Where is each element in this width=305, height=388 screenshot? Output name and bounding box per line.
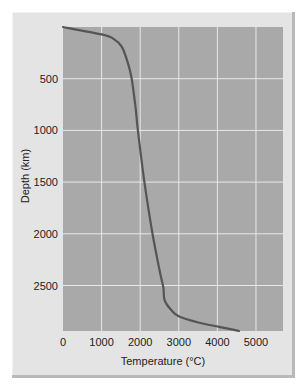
x-tick-label: 2000 bbox=[128, 336, 152, 348]
y-axis-label: Depth (km) bbox=[19, 149, 31, 203]
y-tick-labels: 5001000150020002500 bbox=[34, 73, 58, 292]
x-tick-label: 3000 bbox=[167, 336, 191, 348]
x-tick-label: 4000 bbox=[205, 336, 229, 348]
x-tick-label: 0 bbox=[60, 336, 66, 348]
x-tick-label: 1000 bbox=[89, 336, 113, 348]
y-tick-label: 500 bbox=[40, 73, 58, 85]
y-tick-label: 1500 bbox=[34, 176, 58, 188]
x-axis-label: Temperature (°C) bbox=[121, 355, 205, 367]
y-tick-label: 2500 bbox=[34, 280, 58, 292]
y-tick-label: 2000 bbox=[34, 228, 58, 240]
depth-temperature-chart: 010002000300040005000 500100015002000250… bbox=[0, 0, 305, 388]
x-tick-labels: 010002000300040005000 bbox=[60, 336, 268, 348]
x-tick-label: 5000 bbox=[244, 336, 268, 348]
y-tick-label: 1000 bbox=[34, 124, 58, 136]
